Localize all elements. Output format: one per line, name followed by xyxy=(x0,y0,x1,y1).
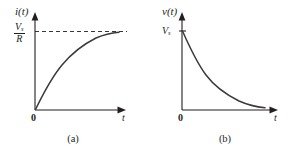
panel-a-origin-label: 0 xyxy=(31,113,36,123)
panel-b-y-axis-label: v(t) xyxy=(162,6,177,17)
panel-b-caption: (b) xyxy=(205,134,245,145)
x-axis-a xyxy=(35,107,126,114)
panel-a: i(t) Vs R 0 t (a) xyxy=(0,0,145,158)
panel-a-y-axis-label: i(t) xyxy=(15,6,28,17)
y-axis-a xyxy=(32,12,39,110)
figure-container: i(t) Vs R 0 t (a) xyxy=(0,0,290,158)
panel-a-x-axis-label: t xyxy=(122,113,125,123)
curve-a xyxy=(36,32,120,109)
panel-a-value-label: Vs R xyxy=(14,22,25,44)
y-axis-b xyxy=(179,12,186,110)
panel-a-caption: (a) xyxy=(53,134,93,145)
panel-b: v(t) Vs 0 t (b) xyxy=(145,0,290,158)
fraction-denominator: R xyxy=(14,34,25,44)
panel-b-origin-label: 0 xyxy=(178,113,183,123)
panel-b-x-axis-label: t xyxy=(274,113,277,123)
panel-b-value-label: Vs xyxy=(162,26,171,37)
curve-b xyxy=(183,31,266,108)
